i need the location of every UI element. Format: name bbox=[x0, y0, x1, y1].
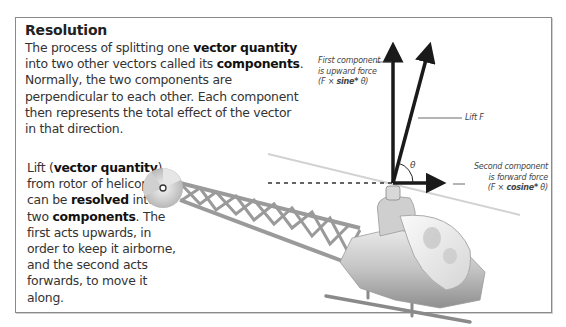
angle-label: θ bbox=[410, 160, 415, 171]
helicopter-body bbox=[340, 186, 485, 308]
tail-rotor bbox=[143, 168, 183, 208]
first-component-label: First component is upward force (F × sin… bbox=[318, 56, 380, 88]
tail-boom bbox=[180, 183, 360, 262]
second-component-label: Second component is forward force (F × c… bbox=[468, 162, 548, 194]
lift-label: Lift F bbox=[465, 113, 484, 124]
